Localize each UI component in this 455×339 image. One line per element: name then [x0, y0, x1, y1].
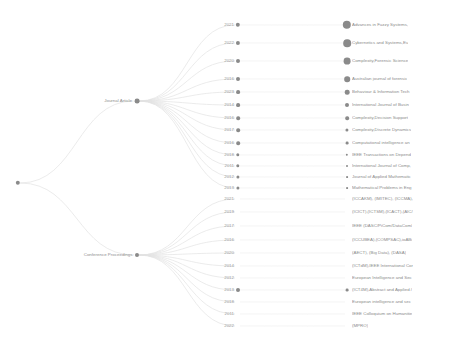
branch-label-1: Conference Proceedings: [84, 253, 133, 257]
journal-venue-label-3: Australian journal of forensic: [352, 77, 407, 81]
branch-label-0: Journal Article: [104, 99, 132, 103]
journal-year-node-2[interactable]: [236, 59, 240, 63]
journal-link-branch-to-year-10: [139, 101, 235, 166]
conference-venue-label-6: European Intelligence and Sec: [352, 276, 412, 280]
journal-year-label-3: 2016: [224, 77, 234, 81]
journal-venue-label-11: Journal of Applied Mathematic: [352, 175, 411, 179]
conference-year-label-4: 2020: [224, 251, 234, 255]
conference-venue-label-8: European intelligence and sec: [352, 300, 411, 304]
journal-year-node-4[interactable]: [236, 90, 240, 94]
journal-year-label-4: 2023: [224, 90, 234, 94]
journal-venue-label-4: Behaviour & Information Tech: [352, 90, 410, 94]
conference-venue-label-10: (MPRO): [352, 324, 368, 328]
journal-venue-label-2: Complexity,Forensic Science: [352, 59, 408, 63]
conference-venue-label-5: (ICTdM),IEEE International Cor: [352, 264, 413, 268]
journal-venue-node-5[interactable]: [345, 103, 349, 107]
conference-link-branch-to-year-1: [139, 212, 235, 255]
conference-year-label-3: 2016: [224, 238, 234, 242]
conference-link-branch-to-year-8: [139, 255, 235, 302]
year-to-venue-links: [240, 25, 345, 326]
link-root-to-branch-1: [20, 183, 134, 255]
conference-year-label-1: 2019: [224, 210, 234, 214]
conference-year-label-10: 2022: [224, 324, 234, 328]
journal-year-label-10: 2011: [225, 164, 234, 168]
journal-venue-label-6: Complexity,Decision Support: [352, 116, 408, 120]
journal-venue-node-6[interactable]: [345, 116, 349, 120]
journal-year-label-7: 2017: [224, 128, 234, 132]
journal-venue-node-12[interactable]: [346, 187, 348, 189]
conference-venue-node-7[interactable]: [346, 289, 349, 292]
journal-year-label-12: 2013: [224, 186, 234, 190]
conference-venue-label-2: IEEE (DASC/PiCom/DataCom/: [352, 224, 412, 228]
journal-link-branch-to-year-11: [139, 101, 235, 177]
journal-venue-label-7: Complexity,Discrete Dynamics: [352, 128, 411, 132]
journal-link-branch-to-year-7: [139, 101, 235, 130]
conference-venue-label-7: (ICT4M),Abstract and Applied /: [352, 288, 412, 292]
journal-venue-label-1: Cybernetics and Systems,Eu: [352, 41, 408, 45]
journal-year-label-8: 2016: [224, 141, 234, 145]
journal-venue-node-10[interactable]: [346, 165, 348, 167]
journal-venue-label-9: IEEE Transactions on Depend: [352, 153, 411, 157]
journal-year-label-0: 2021: [224, 23, 234, 27]
journal-venue-label-10: International Journal of Comp,: [352, 164, 411, 168]
conference-year-label-0: 2021: [224, 197, 234, 201]
journal-link-branch-to-year-9: [139, 101, 235, 155]
journal-year-label-11: 2012: [224, 175, 234, 179]
conference-venue-label-1: (ICICT),(ICTSM),(ICACT),(AIC/: [352, 210, 413, 214]
conference-venue-label-3: (ICCUBEA),(COMPSAC),ioABi: [352, 238, 412, 242]
journal-venue-node-2[interactable]: [344, 58, 351, 65]
journal-link-branch-to-year-12: [139, 101, 235, 188]
journal-link-branch-to-year-2: [139, 61, 235, 101]
conference-venue-label-4: (AECT), (Big Data), (DASA): [352, 251, 406, 255]
dendrogram-visualization: Journal ArticleConference Proceedings202…: [0, 0, 455, 339]
journal-link-branch-to-year-3: [139, 79, 235, 101]
journal-year-node-7[interactable]: [236, 128, 240, 132]
conference-year-label-2: 2017: [224, 224, 234, 228]
journal-venue-node-8[interactable]: [346, 142, 349, 145]
journal-year-node-3[interactable]: [236, 77, 240, 81]
branch-to-year-links: [139, 25, 235, 326]
journal-year-node-8[interactable]: [236, 141, 240, 145]
link-root-to-branch-0: [20, 101, 133, 183]
journal-venue-label-8: Computational intelligence an: [352, 141, 410, 145]
journal-year-node-5[interactable]: [236, 103, 240, 107]
journal-year-label-2: 2020: [224, 59, 234, 63]
journal-year-label-9: 2018: [224, 153, 234, 157]
conference-year-label-8: 2018: [224, 300, 234, 304]
journal-year-node-6[interactable]: [236, 116, 240, 120]
conference-link-branch-to-year-9: [139, 255, 235, 314]
journal-venue-label-0: Advances in Fuzzy Systems,: [352, 23, 408, 27]
journal-venue-label-5: International Journal of Busin: [352, 103, 409, 107]
conference-venue-label-9: IEEE Colloquium on Humanitie: [352, 312, 412, 316]
branch-node-0[interactable]: [135, 99, 140, 104]
branch-node-1[interactable]: [135, 253, 139, 257]
conference-year-label-6: 2012: [224, 276, 234, 280]
journal-venue-node-11[interactable]: [346, 176, 348, 178]
journal-venue-node-3[interactable]: [344, 76, 350, 82]
conference-year-label-9: 2011: [225, 312, 234, 316]
conference-year-label-5: 2014: [224, 264, 234, 268]
journal-venue-node-1[interactable]: [343, 39, 351, 47]
conference-link-branch-to-year-6: [139, 255, 235, 278]
journal-venue-node-4[interactable]: [345, 90, 350, 95]
journal-year-label-1: 2022: [224, 41, 234, 45]
journal-venue-label-12: Mathematical Problems in Eng: [352, 186, 412, 190]
conference-venue-label-0: (ICCAKM), (IMITEC), (ICCMA),: [352, 197, 413, 201]
journal-link-branch-to-year-0: [139, 25, 235, 101]
journal-link-branch-to-year-8: [139, 101, 235, 143]
root-to-branch-links: [20, 101, 134, 255]
conference-year-label-7: 2013: [224, 288, 234, 292]
conference-year-node-7[interactable]: [236, 288, 240, 292]
journal-year-label-5: 2014: [224, 103, 234, 107]
journal-year-label-6: 2016: [224, 116, 234, 120]
